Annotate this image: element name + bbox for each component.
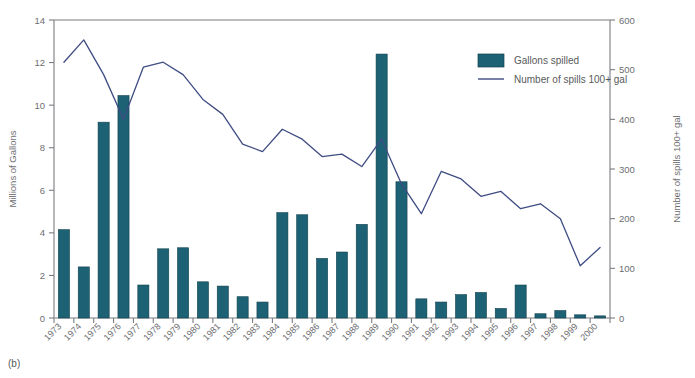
y2-axis-tick-label: 400 xyxy=(619,114,635,125)
x-axis-tick-label: 1998 xyxy=(539,321,560,342)
x-axis-tick-label: 1980 xyxy=(181,321,202,342)
y-axis-tick: 4 xyxy=(40,227,54,238)
y-axis-tick-label: 2 xyxy=(40,270,45,281)
x-axis-tick-label: 1976 xyxy=(102,321,123,342)
y-axis-tick-label: 10 xyxy=(34,100,45,111)
bar xyxy=(317,258,328,318)
x-axis-tick-label: 1987 xyxy=(320,321,341,342)
x-axis-tick-label: 1982 xyxy=(221,321,242,342)
bar xyxy=(595,316,606,318)
y-axis-tick: 8 xyxy=(40,142,54,153)
x-axis-tick-label: 1977 xyxy=(122,321,143,342)
bar xyxy=(555,311,566,318)
y-axis-tick-label: 0 xyxy=(40,313,45,324)
x-axis-tick-label: 1989 xyxy=(360,321,381,342)
x-axis-tick-label: 1991 xyxy=(400,321,421,342)
x-axis-tick-label: 1993 xyxy=(439,321,460,342)
bar xyxy=(475,292,486,318)
bar xyxy=(118,96,129,318)
chart-legend: Gallons spilledNumber of spills 100+ gal xyxy=(478,54,627,85)
y-axis-tick: 2 xyxy=(40,270,54,281)
x-axis-tick-label: 1999 xyxy=(558,321,579,342)
legend-label-gallons-spilled: Gallons spilled xyxy=(514,55,579,66)
y-axis-title: Millions of Gallons xyxy=(7,130,18,207)
bar xyxy=(376,54,387,318)
x-axis-tick-label: 1997 xyxy=(519,321,540,342)
bar xyxy=(336,252,347,318)
y2-axis-tick: 100 xyxy=(610,263,635,274)
bar-series xyxy=(58,54,605,318)
x-axis-tick-label: 1996 xyxy=(499,321,520,342)
y-axis-tick: 6 xyxy=(40,185,54,196)
chart-figure: 0246810121401002003004005006001973197419… xyxy=(0,0,695,378)
bar xyxy=(575,315,586,318)
bar xyxy=(456,295,467,318)
legend-swatch-gallons-spilled xyxy=(478,54,504,67)
bar xyxy=(257,302,268,318)
x-axis-tick-label: 1979 xyxy=(161,321,182,342)
bar xyxy=(495,308,506,318)
bar xyxy=(535,314,546,318)
y-axis-tick-label: 4 xyxy=(40,227,45,238)
bar xyxy=(78,267,89,318)
x-axis-tick-label: 1973 xyxy=(42,321,63,342)
x-axis-tick-label: 1983 xyxy=(241,321,262,342)
x-axis-tick-label: 1974 xyxy=(62,321,83,342)
bar xyxy=(98,122,109,318)
bar xyxy=(436,302,447,318)
x-axis-tick-label: 1978 xyxy=(141,321,162,342)
y2-axis-tick-label: 600 xyxy=(619,15,635,26)
bar xyxy=(138,285,149,318)
y2-axis-tick: 200 xyxy=(610,213,635,224)
bar xyxy=(515,285,526,318)
x-axis-tick-label: 1981 xyxy=(201,321,222,342)
y-axis-tick-label: 12 xyxy=(34,57,45,68)
y-axis-tick: 14 xyxy=(34,15,54,26)
y-axis-tick: 12 xyxy=(34,57,54,68)
y2-axis-tick: 600 xyxy=(610,15,635,26)
y-axis-tick-label: 8 xyxy=(40,142,45,153)
x-axis-tick-label: 1995 xyxy=(479,321,500,342)
bar xyxy=(58,230,69,318)
y2-axis-tick: 400 xyxy=(610,114,635,125)
y2-axis-title: Number of spills 100+ gal xyxy=(671,115,682,222)
y-axis-tick-label: 6 xyxy=(40,185,45,196)
y2-axis-tick-label: 100 xyxy=(619,263,635,274)
y2-axis-tick-label: 300 xyxy=(619,164,635,175)
bar xyxy=(237,297,248,318)
x-axis-tick-label: 1988 xyxy=(340,321,361,342)
bar xyxy=(217,286,228,318)
x-axis-tick-label: 2000 xyxy=(578,321,599,342)
y-axis-tick: 10 xyxy=(34,100,54,111)
x-axis-tick-label: 1992 xyxy=(419,321,440,342)
oil-spills-dual-axis-chart: 0246810121401002003004005006001973197419… xyxy=(0,0,695,378)
y2-axis-tick-label: 0 xyxy=(619,313,624,324)
bar xyxy=(197,282,208,318)
y2-axis-tick: 0 xyxy=(610,313,624,324)
bar xyxy=(277,213,288,318)
bar xyxy=(396,182,407,318)
y2-axis-tick-label: 200 xyxy=(619,213,635,224)
y-axis-tick-label: 14 xyxy=(34,15,45,26)
bar xyxy=(297,215,308,318)
y-axis-tick: 0 xyxy=(40,313,54,324)
y2-axis-tick: 300 xyxy=(610,164,635,175)
x-axis-tick-label: 1994 xyxy=(459,321,480,342)
bar xyxy=(356,224,367,318)
bar xyxy=(416,299,427,318)
x-axis-tick-label: 1975 xyxy=(82,321,103,342)
x-axis-tick-label: 1985 xyxy=(280,321,301,342)
bar xyxy=(178,248,189,318)
x-axis-tick-label: 1990 xyxy=(380,321,401,342)
x-axis-tick-label: 1984 xyxy=(261,321,282,342)
legend-label-number-of-spills: Number of spills 100+ gal xyxy=(514,74,627,85)
bar xyxy=(158,249,169,318)
x-axis-tick-label: 1986 xyxy=(300,321,321,342)
